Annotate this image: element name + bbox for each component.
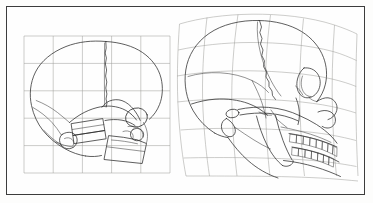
deformed-grid — [177, 14, 358, 181]
infant-frontal-parietal-arc — [106, 42, 162, 120]
adult-frontal-outline — [259, 21, 327, 102]
infant-occipital-squama — [44, 130, 62, 145]
warped-grid-v6 — [356, 34, 358, 176]
adult-nasal-bridge — [317, 98, 337, 120]
adult-upper-teeth — [289, 134, 337, 157]
warped-grid-h5 — [184, 158, 357, 167]
warped-grid-v0 — [177, 24, 186, 176]
adult-cranial-vault-outline — [185, 20, 259, 133]
skull-transformation-figure — [0, 0, 373, 203]
adult-mandible-lower-border — [284, 161, 341, 177]
adult-orbit-rim — [297, 68, 320, 98]
adult-zygomatic-arch-upper — [238, 107, 300, 116]
infant-zygomatic-arch — [105, 120, 135, 126]
infant-occipital-outline — [86, 156, 102, 157]
infant-maxilla-lower-plate — [73, 131, 106, 144]
infant-skull-panel — [24, 36, 170, 173]
adult-maxilla-outline — [300, 116, 338, 144]
warped-grid-h6 — [186, 176, 358, 181]
infant-alveolar-ridge — [112, 140, 138, 144]
adult-zygomatic-arch-lower — [240, 113, 299, 121]
adult-orbit-inner-line — [301, 76, 311, 97]
infant-tympanic-ring — [65, 138, 74, 146]
infant-squamous-suture — [36, 101, 69, 123]
infant-maxilla-divider — [72, 125, 104, 130]
infant-mandible-body-line — [107, 147, 145, 152]
adult-basicranium-trace — [235, 127, 271, 149]
warped-grid-v1 — [202, 18, 209, 177]
adult-skull-panel — [177, 14, 358, 181]
adult-nasion-profile — [309, 97, 317, 101]
warped-grid-v2 — [232, 15, 238, 177]
figure-page — [0, 0, 373, 203]
adult-coronal-suture — [260, 21, 276, 100]
infant-nasal-aperture-edge — [144, 123, 148, 144]
infant-coronal-suture — [105, 42, 107, 107]
infant-suture-shadow — [104, 43, 105, 107]
warped-grid-v3 — [265, 15, 270, 176]
infant-orbit — [124, 106, 150, 130]
infant-cranial-vault-outline — [30, 41, 106, 156]
